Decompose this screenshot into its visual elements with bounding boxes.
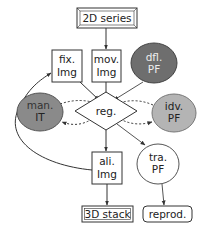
node-dfl-pf: dfl. PF: [131, 43, 177, 83]
node-reg-label: reg.: [96, 105, 117, 117]
node-tra-pf-line1: tra.: [149, 151, 167, 163]
node-tra-pf: tra. PF: [137, 144, 179, 184]
node-tra-pf-line2: PF: [152, 163, 164, 175]
node-ali-img-line1: ali.: [99, 155, 115, 167]
edge-tra-to-reprod: [162, 184, 164, 205]
node-mov-img: mov. Img: [92, 50, 121, 82]
node-3d-stack-label: 3D stack: [85, 208, 132, 220]
edge-dfl-to-reg: [114, 82, 143, 100]
node-man-it: man. IT: [17, 93, 63, 131]
node-2d-series: 2D series: [77, 8, 137, 28]
edge-reg-to-man: [62, 119, 92, 124]
node-dfl-pf-line2: PF: [148, 63, 160, 75]
edge-reg-to-idv: [120, 119, 152, 124]
edge-reg-to-tra: [117, 124, 145, 145]
node-2d-series-label: 2D series: [82, 12, 131, 24]
node-man-it-line2: IT: [35, 111, 45, 123]
node-mov-img-line2: Img: [97, 66, 117, 78]
workflow-diagram: 2D series fix. Img mov. Img dfl. PF man.…: [0, 0, 201, 233]
node-reprod-label: reprod.: [149, 208, 187, 220]
node-fix-img-line1: fix.: [59, 53, 75, 65]
node-mov-img-line1: mov.: [94, 53, 119, 65]
node-idv-pf: idv. PF: [152, 94, 196, 132]
node-3d-stack: 3D stack: [82, 206, 133, 222]
node-ali-img: ali. Img: [92, 152, 122, 184]
node-idv-pf-line1: idv.: [165, 100, 183, 112]
node-ali-img-line2: Img: [97, 168, 117, 180]
edge-fix-to-reg: [80, 82, 99, 100]
node-dfl-pf-line1: dfl.: [146, 51, 163, 63]
node-man-it-line1: man.: [27, 99, 54, 111]
node-fix-img: fix. Img: [52, 50, 82, 82]
node-reg: reg.: [75, 92, 137, 130]
node-fix-img-line2: Img: [57, 66, 77, 78]
node-idv-pf-line2: PF: [168, 112, 180, 124]
node-reprod: reprod.: [143, 206, 192, 222]
